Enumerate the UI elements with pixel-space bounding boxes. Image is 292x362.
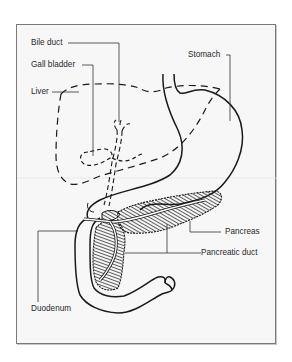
gall-bladder-outline bbox=[81, 149, 142, 165]
leader-pancreas bbox=[190, 221, 221, 232]
leader-duodenum bbox=[38, 231, 78, 302]
leader-gall-bladder bbox=[82, 65, 93, 156]
leader-bile-duct bbox=[68, 43, 119, 122]
label-gall-bladder: Gall bladder bbox=[31, 60, 75, 70]
leader-stomach bbox=[226, 55, 230, 121]
pancreas-shape bbox=[93, 191, 222, 290]
leader-lines bbox=[38, 43, 230, 302]
label-pancreas: Pancreas bbox=[225, 227, 260, 237]
bile-duct-outline bbox=[104, 118, 130, 206]
label-stomach: Stomach bbox=[188, 50, 220, 60]
duodenum-outline bbox=[75, 218, 175, 313]
label-pancreatic-duct: Pancreatic duct bbox=[201, 248, 257, 258]
label-liver: Liver bbox=[31, 87, 49, 97]
label-bile-duct: Bile duct bbox=[31, 38, 62, 48]
liver-outline bbox=[56, 84, 220, 185]
label-duodenum: Duodenum bbox=[31, 304, 71, 314]
